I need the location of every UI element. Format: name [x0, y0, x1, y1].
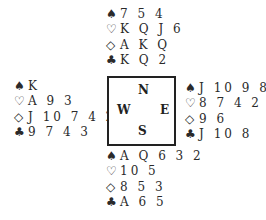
spade-icon: ♠	[14, 79, 28, 94]
south-clubs: ♣A 6 5	[106, 195, 204, 210]
club-icon: ♣	[106, 53, 120, 68]
diamond-icon: ◇	[106, 180, 120, 195]
north-spades: ♠7 5 4	[106, 7, 184, 22]
spade-icon: ♠	[185, 81, 199, 96]
club-icon: ♣	[106, 195, 120, 210]
east-diamonds: ◇9 6	[185, 112, 266, 127]
east-spades: ♠J 10 9 8	[185, 81, 266, 96]
east-clubs: ♣J 10 8	[185, 127, 266, 142]
spade-icon: ♠	[106, 7, 120, 22]
south-spades: ♠A Q 6 3 2	[106, 149, 204, 164]
compass-east: E	[160, 103, 169, 117]
heart-icon: ♡	[106, 22, 120, 37]
south-hand: ♠A Q 6 3 2 ♡10 5 ◇8 5 3 ♣A 6 5	[106, 149, 204, 210]
compass-box: N W E S	[107, 76, 176, 146]
diamond-icon: ◇	[14, 110, 28, 125]
compass-north: N	[138, 83, 149, 97]
east-hearts: ♡8 7 4 2	[185, 96, 266, 111]
heart-icon: ♡	[185, 96, 199, 111]
club-icon: ♣	[185, 127, 199, 142]
north-hand: ♠7 5 4 ♡K Q J 6 ◇A K Q ♣K Q 2	[106, 7, 184, 68]
south-diamonds: ◇8 5 3	[106, 180, 204, 195]
west-hand: ♠K ♡A 9 3 ◇J 10 7 4 2 ♣9 7 4 3	[14, 79, 116, 140]
north-clubs: ♣K Q 2	[106, 53, 184, 68]
west-hearts: ♡A 9 3	[14, 94, 116, 109]
heart-icon: ♡	[106, 164, 120, 179]
west-spades: ♠K	[14, 79, 116, 94]
diamond-icon: ◇	[106, 38, 120, 53]
compass-west: W	[117, 103, 130, 117]
diamond-icon: ◇	[185, 112, 199, 127]
spade-icon: ♠	[106, 149, 120, 164]
north-hearts: ♡K Q J 6	[106, 22, 184, 37]
heart-icon: ♡	[14, 94, 28, 109]
west-clubs: ♣9 7 4 3	[14, 125, 116, 140]
north-diamonds: ◇A K Q	[106, 38, 184, 53]
club-icon: ♣	[14, 125, 28, 140]
compass-south: S	[138, 124, 147, 138]
south-hearts: ♡10 5	[106, 164, 204, 179]
east-hand: ♠J 10 9 8 ♡8 7 4 2 ◇9 6 ♣J 10 8	[185, 81, 266, 142]
west-diamonds: ◇J 10 7 4 2	[14, 110, 116, 125]
